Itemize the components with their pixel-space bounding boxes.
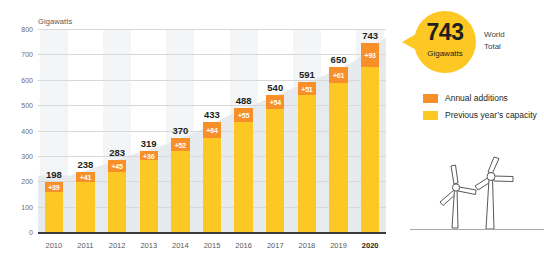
legend-item[interactable]: Previous year’s capacity <box>423 110 543 121</box>
bar-total-value-label: 540 <box>257 82 293 93</box>
annual-addition-value-label: +61 <box>329 71 347 78</box>
bar-segment-previous-capacity[interactable] <box>329 83 347 232</box>
bar-column[interactable]: +363192013 <box>140 29 158 232</box>
bar-segment-annual-additions[interactable]: +93 <box>361 43 379 67</box>
bar-column[interactable]: +616502019 <box>329 29 347 232</box>
y-axis-tick-label: 500 <box>21 102 33 109</box>
legend-color-swatch-icon <box>423 111 438 120</box>
legend-item-label: Annual additions <box>445 93 508 104</box>
bar-segment-annual-additions[interactable]: +36 <box>140 151 158 160</box>
y-axis-tick-label: 0 <box>29 229 33 236</box>
bar-segment-annual-additions[interactable]: +61 <box>329 67 347 82</box>
annual-addition-value-label: +45 <box>108 162 126 169</box>
bar-total-value-label: 743 <box>352 30 388 41</box>
bar-segment-previous-capacity[interactable] <box>108 172 126 232</box>
bar-total-value-label: 198 <box>36 169 72 180</box>
bar-total-value-label: 488 <box>225 95 261 106</box>
bar-segment-previous-capacity[interactable] <box>234 122 252 232</box>
gridline-0: 0 <box>38 232 386 234</box>
bar-segment-annual-additions[interactable]: +45 <box>108 160 126 171</box>
bar-segment-annual-additions[interactable]: +39 <box>45 182 63 192</box>
legend-item-label: Previous year’s capacity <box>445 110 537 121</box>
y-axis-tick-label: 200 <box>21 178 33 185</box>
bar-column[interactable]: +412382011 <box>76 29 94 232</box>
y-axis-unit-label: Gigawatts <box>38 17 72 26</box>
renewable-capacity-chart-figure: Gigawatts 0100200300400500600700800 +391… <box>0 0 544 255</box>
bar-column[interactable]: +644332015 <box>203 29 221 232</box>
bar-column[interactable]: +515912018 <box>298 29 316 232</box>
legend-item[interactable]: Annual additions <box>423 93 543 104</box>
bar-column[interactable]: +937432020 <box>361 29 379 232</box>
world-total-callout: 743 Gigawatts World Total <box>404 11 544 73</box>
legend: Annual additionsPrevious year’s capacity <box>423 93 543 126</box>
bar-segment-previous-capacity[interactable] <box>45 192 63 232</box>
bar-column[interactable]: +554882016 <box>234 29 252 232</box>
bar-segment-annual-additions[interactable]: +64 <box>203 122 221 138</box>
callout-side-line-2: Total <box>484 41 505 53</box>
bar-total-value-label: 433 <box>194 109 230 120</box>
bar-segment-previous-capacity[interactable] <box>266 109 284 232</box>
annual-addition-value-label: +64 <box>203 127 221 134</box>
bar-total-value-label: 319 <box>131 138 167 149</box>
bar-segment-annual-additions[interactable]: +54 <box>266 95 284 109</box>
legend-color-swatch-icon <box>423 94 438 103</box>
bar-segment-previous-capacity[interactable] <box>298 95 316 232</box>
annual-addition-value-label: +93 <box>361 52 379 59</box>
chart-panel: Gigawatts 0100200300400500600700800 +391… <box>0 0 404 255</box>
x-axis-tick-label: 2020 <box>352 241 388 250</box>
bar-segment-annual-additions[interactable]: +51 <box>298 82 316 95</box>
bar-total-value-label: 238 <box>67 159 103 170</box>
y-axis-tick-label: 300 <box>21 152 33 159</box>
y-axis-tick-label: 600 <box>21 76 33 83</box>
bar-column[interactable]: +523702014 <box>171 29 189 232</box>
bar-segment-previous-capacity[interactable] <box>76 182 94 232</box>
annual-addition-value-label: +39 <box>45 183 63 190</box>
callout-side-text: World Total <box>484 29 505 52</box>
annual-addition-value-label: +55 <box>234 112 252 119</box>
annual-addition-value-label: +54 <box>266 98 284 105</box>
wind-turbines-icon <box>424 156 540 236</box>
bar-total-value-label: 370 <box>162 125 198 136</box>
y-axis-tick-label: 700 <box>21 51 33 58</box>
bar-segment-previous-capacity[interactable] <box>140 160 158 232</box>
annual-addition-value-label: +41 <box>76 173 94 180</box>
plot-area: 0100200300400500600700800 +391982010+412… <box>38 29 386 232</box>
annual-addition-value-label: +52 <box>171 141 189 148</box>
y-axis-tick-label: 400 <box>21 127 33 134</box>
bar-segment-previous-capacity[interactable] <box>361 67 379 232</box>
bar-column[interactable]: +391982010 <box>45 29 63 232</box>
bar-column[interactable]: +452832012 <box>108 29 126 232</box>
bar-column[interactable]: +545402017 <box>266 29 284 232</box>
bar-total-value-label: 591 <box>289 69 325 80</box>
y-axis-tick-label: 800 <box>21 26 33 33</box>
bar-segment-previous-capacity[interactable] <box>203 138 221 232</box>
ground-line <box>410 229 544 230</box>
annual-addition-value-label: +51 <box>298 85 316 92</box>
bar-total-value-label: 650 <box>320 54 356 65</box>
bar-segment-annual-additions[interactable]: +55 <box>234 108 252 122</box>
annual-addition-value-label: +36 <box>140 152 158 159</box>
bar-segment-annual-additions[interactable]: +52 <box>171 138 189 151</box>
callout-side-line-1: World <box>484 29 505 41</box>
bar-segment-previous-capacity[interactable] <box>171 151 189 232</box>
callout-value: 743 <box>414 21 476 44</box>
bar-segment-annual-additions[interactable]: +41 <box>76 172 94 182</box>
y-axis-tick-label: 100 <box>21 203 33 210</box>
callout-unit: Gigawatts <box>414 49 476 58</box>
